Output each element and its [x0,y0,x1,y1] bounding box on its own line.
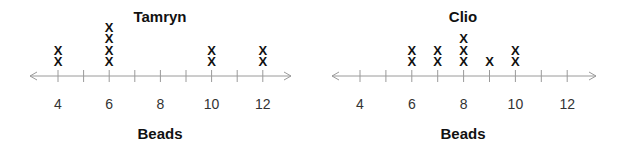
dot-plot-tamryn: Tamryn4681012XXXXXXXXXXBeads [30,8,291,142]
x-mark: X [485,54,494,69]
x-mark: X [105,20,114,35]
tick-label: 10 [508,96,524,112]
tick-label: 12 [255,96,271,112]
chart-title: Tamryn [133,8,186,25]
tick-label: 10 [204,96,220,112]
tick-label: 8 [460,96,468,112]
x-mark: X [433,43,442,58]
dot-plots: Tamryn4681012XXXXXXXXXXBeads Clio4681012… [0,0,619,149]
tick-label: 6 [408,96,416,112]
x-mark: X [511,43,520,58]
dot-plot-clio: Clio4681012XXXXXXXXXXBeads [332,8,596,142]
x-mark: X [407,43,416,58]
tick-label: 4 [356,96,364,112]
tick-label: 12 [559,96,575,112]
x-axis-label: Beads [137,125,182,142]
x-mark: X [207,43,216,58]
x-mark: X [54,43,63,58]
x-mark: X [459,31,468,46]
chart-title: Clio [449,8,477,25]
tick-label: 8 [157,96,165,112]
x-mark: X [258,43,267,58]
tick-label: 4 [54,96,62,112]
x-axis-label: Beads [440,125,485,142]
tick-label: 6 [105,96,113,112]
